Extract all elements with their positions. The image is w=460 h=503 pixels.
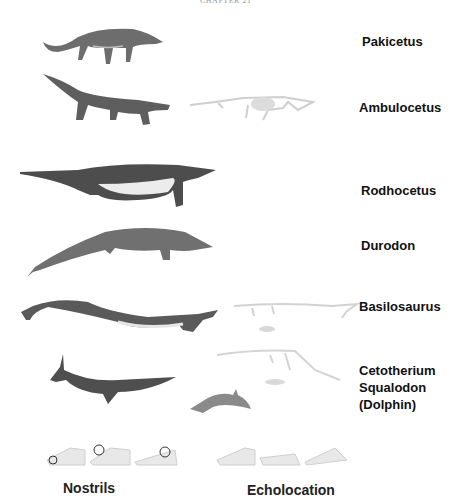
label-rodhocetus: Rodhocetus [361, 183, 436, 199]
label-echolocation: Echolocation [247, 482, 335, 498]
label-squalodon: Squalodon [359, 380, 426, 396]
pakicetus-illustration [38, 22, 168, 67]
label-ambulocetus: Ambulocetus [359, 100, 441, 116]
basilosaurus-illustration [18, 292, 223, 337]
label-nostrils: Nostrils [63, 480, 115, 496]
echolocation-skulls-illustration [215, 440, 350, 470]
ambulocetus-illustration [38, 72, 173, 127]
label-dolphin: (Dolphin) [359, 397, 416, 413]
label-durodon: Durodon [361, 238, 415, 254]
label-pakicetus: Pakicetus [362, 34, 423, 50]
rodhocetus-illustration [18, 160, 218, 215]
basilosaurus-skeleton [232, 296, 362, 336]
chapter-header: CHAPTER 21 [200, 0, 251, 5]
nostril-skulls-illustration [45, 440, 180, 470]
durodon-illustration [25, 222, 215, 280]
cetotherium-illustration [48, 352, 178, 407]
squalodon-dolphin-illustration [188, 385, 253, 413]
ambulocetus-skeleton [188, 90, 318, 125]
label-basilosaurus: Basilosaurus [359, 299, 441, 315]
label-cetotherium: Cetotherium [359, 363, 436, 379]
